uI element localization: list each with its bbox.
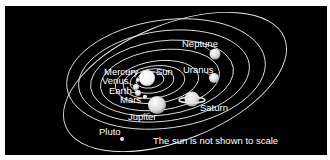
scale-note: The sun is not shown to scale bbox=[153, 135, 278, 146]
label-mars: Mars bbox=[120, 94, 141, 105]
venus-icon bbox=[133, 84, 139, 90]
mars-icon bbox=[143, 95, 147, 99]
solar-system-diagram: Mercury Sun Venus Earth Mars Jupiter Sat… bbox=[0, 0, 330, 160]
label-jupiter: Jupiter bbox=[128, 111, 157, 122]
neptune-icon bbox=[210, 49, 221, 60]
label-neptune: Neptune bbox=[182, 38, 218, 49]
label-saturn: Saturn bbox=[200, 102, 228, 113]
label-uranus: Uranus bbox=[183, 64, 214, 75]
label-pluto: Pluto bbox=[99, 126, 121, 137]
pluto-icon bbox=[120, 137, 124, 141]
label-sun: Sun bbox=[156, 66, 173, 77]
sun-icon bbox=[139, 70, 155, 86]
mercury-icon bbox=[136, 78, 140, 82]
